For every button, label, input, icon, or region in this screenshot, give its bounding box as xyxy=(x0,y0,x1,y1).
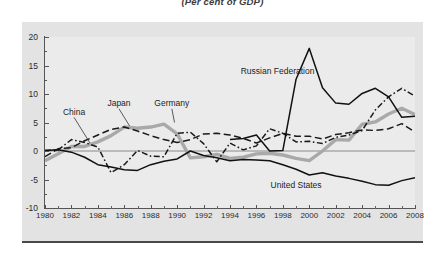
series-label-china: China xyxy=(63,107,85,117)
x-tick-label: 1988 xyxy=(142,211,160,220)
x-tick-label: 1986 xyxy=(115,211,133,220)
x-tick-label: 1996 xyxy=(248,211,266,220)
x-tick-mark xyxy=(71,205,72,209)
x-tick-mark xyxy=(336,205,337,209)
y-minor-tick xyxy=(45,194,47,195)
y-tick-label: -10 xyxy=(16,203,38,213)
x-minor-tick xyxy=(270,206,271,209)
series-label-russian-federation: Russian Federation xyxy=(241,66,315,76)
chart-root: (Per cent of GDP) 20151050-5-10 19801982… xyxy=(0,0,445,256)
y-tick-label: 10 xyxy=(16,89,38,99)
x-minor-tick xyxy=(138,206,139,209)
x-tick-mark xyxy=(389,205,390,209)
x-minor-tick xyxy=(243,206,244,209)
y-minor-tick xyxy=(45,137,47,138)
x-tick-label: 1992 xyxy=(195,211,213,220)
x-tick-mark xyxy=(230,205,231,209)
x-tick-mark xyxy=(151,205,152,209)
y-tick-mark xyxy=(45,37,49,38)
x-tick-mark xyxy=(124,205,125,209)
x-minor-tick xyxy=(375,206,376,209)
x-tick-label: 1998 xyxy=(274,211,292,220)
y-tick-mark xyxy=(45,66,49,67)
x-tick-mark xyxy=(204,205,205,209)
x-tick-label: 1980 xyxy=(36,211,54,220)
y-tick-label: 20 xyxy=(16,32,38,42)
x-tick-mark xyxy=(415,205,416,209)
plot-area xyxy=(45,37,415,208)
y-tick-mark xyxy=(45,123,49,124)
x-tick-label: 1994 xyxy=(221,211,239,220)
x-tick-mark xyxy=(256,205,257,209)
x-minor-tick xyxy=(217,206,218,209)
series-line-russian-federation xyxy=(230,48,415,151)
y-tick-label: -5 xyxy=(16,175,38,185)
x-minor-tick xyxy=(85,206,86,209)
x-tick-label: 2006 xyxy=(380,211,398,220)
series-label-japan: Japan xyxy=(107,98,130,108)
y-minor-tick xyxy=(45,108,47,109)
x-tick-label: 1984 xyxy=(89,211,107,220)
y-tick-label: 15 xyxy=(16,61,38,71)
series-label-germany: Germany xyxy=(154,98,189,108)
x-tick-mark xyxy=(283,205,284,209)
x-tick-label: 1982 xyxy=(63,211,81,220)
series-canvas xyxy=(45,37,415,208)
y-minor-tick xyxy=(45,165,47,166)
x-tick-label: 2000 xyxy=(300,211,318,220)
x-minor-tick xyxy=(349,206,350,209)
x-tick-label: 1990 xyxy=(168,211,186,220)
x-minor-tick xyxy=(323,206,324,209)
y-tick-mark xyxy=(45,180,49,181)
label-leader-line xyxy=(172,109,175,123)
x-minor-tick xyxy=(190,206,191,209)
label-leader-line xyxy=(74,117,90,143)
y-tick-mark xyxy=(45,94,49,95)
x-tick-label: 2008 xyxy=(406,211,424,220)
x-tick-mark xyxy=(45,205,46,209)
x-minor-tick xyxy=(402,206,403,209)
x-minor-tick xyxy=(296,206,297,209)
y-tick-label: 5 xyxy=(16,118,38,128)
x-tick-mark xyxy=(309,205,310,209)
chart-subtitle: (Per cent of GDP) xyxy=(0,0,445,7)
x-tick-mark xyxy=(362,205,363,209)
y-tick-mark xyxy=(45,151,49,152)
x-tick-label: 2002 xyxy=(327,211,345,220)
y-tick-label: 0 xyxy=(16,146,38,156)
x-tick-label: 2004 xyxy=(353,211,371,220)
x-tick-mark xyxy=(98,205,99,209)
x-tick-mark xyxy=(177,205,178,209)
series-line-united-states xyxy=(45,150,415,185)
x-minor-tick xyxy=(58,206,59,209)
y-minor-tick xyxy=(45,80,47,81)
x-minor-tick xyxy=(164,206,165,209)
label-leader-line xyxy=(119,109,130,126)
series-label-united-states: United States xyxy=(271,180,322,190)
panel-bottom-rule xyxy=(22,241,423,243)
y-minor-tick xyxy=(45,51,47,52)
x-minor-tick xyxy=(111,206,112,209)
